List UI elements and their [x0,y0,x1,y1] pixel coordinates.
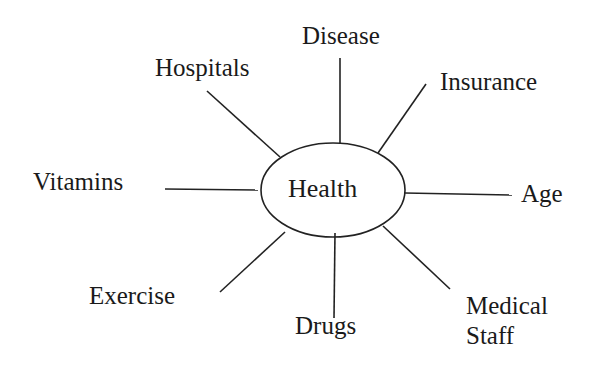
node-label-medical: Medical [466,292,548,320]
center-label-health: Health [288,175,357,204]
node-label-staff: Staff [466,322,514,350]
connector-drugs [334,233,335,318]
node-label-exercise: Exercise [89,282,175,310]
connector-insurance [378,84,426,153]
node-label-hospitals: Hospitals [155,54,249,82]
connector-vitamins [165,189,258,190]
node-label-drugs: Drugs [295,312,356,340]
node-label-insurance: Insurance [440,68,537,96]
node-label-vitamins: Vitamins [33,168,123,196]
connector-exercise [220,232,285,292]
connector-hospitals [207,91,280,157]
connector-age [405,193,512,195]
health-mind-map: Health Disease Hospitals Insurance Vitam… [0,0,600,375]
node-label-disease: Disease [302,22,380,50]
node-label-age: Age [521,180,563,208]
connector-medical-staff [383,226,450,289]
